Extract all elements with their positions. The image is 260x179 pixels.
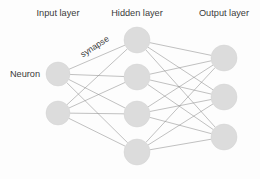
neuron-annotation-label: Neuron <box>10 69 40 79</box>
output-layer-label: Output layer <box>199 8 249 18</box>
input-layer-label: Input layer <box>37 8 80 18</box>
neuron-node-h1 <box>124 27 150 53</box>
neuron-node-o3 <box>211 124 237 150</box>
synapse-edge-i2-to-h3 <box>70 113 124 114</box>
synapse-edge-i1-to-h2 <box>70 74 124 76</box>
edge-group-hidden-to-output <box>146 43 216 150</box>
synapse-edge-h2-to-o3 <box>148 84 214 129</box>
neural-network-diagram: Input layer Hidden layer Output layer Ne… <box>0 0 260 179</box>
neuron-node-h3 <box>124 101 150 127</box>
hidden-layer-label: Hidden layer <box>111 8 163 18</box>
neuron-node-h4 <box>124 139 150 165</box>
synapse-edge-h1-to-o1 <box>150 43 212 56</box>
neuron-node-i2 <box>46 101 70 125</box>
synapse-edge-h4-to-o1 <box>146 68 215 143</box>
neuron-node-o1 <box>211 45 237 71</box>
neuron-node-h2 <box>124 64 150 90</box>
neuron-node-o2 <box>211 84 237 110</box>
synapse-edge-i1-to-h4 <box>67 82 128 142</box>
edge-group-input-to-hidden <box>67 45 128 146</box>
synapse-edge-h3-to-o3 <box>150 117 212 133</box>
network-canvas: Input layer Hidden layer Output layer Ne… <box>0 0 260 179</box>
synapse-edge-h3-to-o2 <box>150 99 211 111</box>
synapse-edge-h1-to-o3 <box>146 50 216 128</box>
synapse-edge-h3-to-o1 <box>148 65 213 107</box>
synapse-edge-i1-to-h3 <box>69 79 126 108</box>
synapse-edge-h4-to-o3 <box>150 139 211 150</box>
neuron-node-i1 <box>46 62 70 86</box>
synapse-annotation-label: synapse <box>78 33 110 59</box>
node-group <box>46 27 237 165</box>
